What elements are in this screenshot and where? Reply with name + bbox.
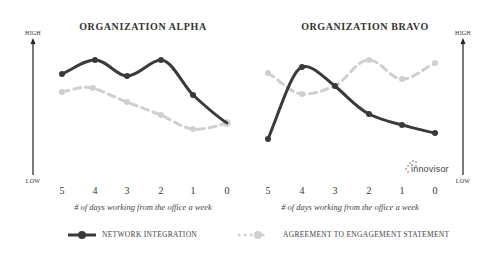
x-tick: 4	[300, 185, 305, 196]
legend-network-swatch	[68, 231, 96, 239]
arrow-up-icon	[461, 38, 466, 44]
series-agreement-bravo	[265, 57, 438, 97]
arrow-up-icon	[31, 38, 36, 44]
chart-canvas	[0, 0, 496, 257]
innovisor-logo: innovisor	[411, 164, 449, 174]
x-tick: 3	[333, 185, 338, 196]
x-tick: 3	[125, 185, 130, 196]
x-tick: 0	[433, 185, 438, 196]
legend-agreement-swatch	[238, 231, 268, 239]
x-tick: 4	[93, 185, 98, 196]
series-network-alpha	[59, 57, 227, 123]
legend-label-network: NETWORK INTEGRATION	[102, 230, 197, 239]
x-tick: 1	[191, 185, 196, 196]
x-axis-label-alpha: # of days working from the office a week	[74, 202, 212, 212]
x-tick: 5	[60, 185, 65, 196]
x-axis-label-bravo: # of days working from the office a week	[281, 202, 419, 212]
y-axis-left	[31, 38, 36, 175]
series-agreement-alpha	[59, 85, 230, 132]
x-tick: 1	[400, 185, 405, 196]
x-tick: 2	[159, 185, 164, 196]
y-axis-right	[461, 38, 466, 175]
x-tick: 2	[367, 185, 372, 196]
x-tick: 5	[266, 185, 271, 196]
legend-label-agreement: AGREEMENT TO ENGAGEMENT STATEMENT	[283, 230, 449, 239]
x-tick: 0	[225, 185, 230, 196]
